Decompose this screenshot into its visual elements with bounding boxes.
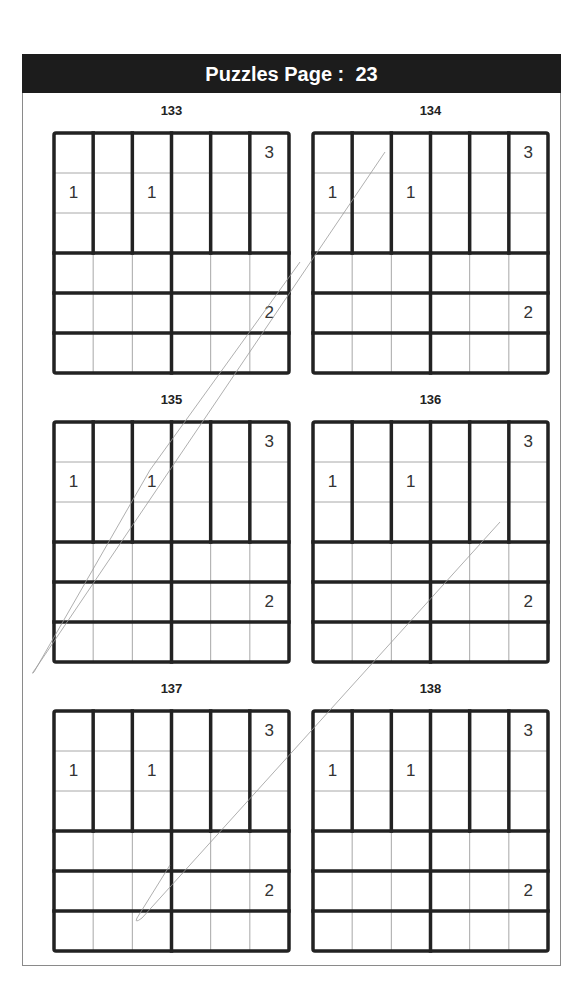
clue-number: 1	[54, 173, 93, 213]
clue-number: 1	[54, 462, 93, 502]
clue-number: 1	[313, 462, 352, 502]
puzzle-grid: 3112	[54, 422, 289, 662]
puzzle-grid: 3112	[313, 133, 548, 373]
clue-number: 2	[509, 582, 548, 622]
clue-number: 2	[509, 293, 548, 333]
puzzle-number-label: 133	[132, 103, 212, 118]
page-number: 23	[355, 54, 377, 94]
clue-number: 3	[509, 711, 548, 751]
page-title: Puzzles Page :	[205, 54, 344, 94]
puzzle-grid: 3112	[313, 422, 548, 662]
clue-number: 1	[313, 751, 352, 791]
puzzle-number-label: 138	[391, 681, 471, 696]
clue-number: 2	[250, 582, 289, 622]
clue-number: 2	[250, 293, 289, 333]
clue-number: 1	[391, 173, 430, 213]
clue-number: 1	[313, 173, 352, 213]
puzzle-grid: 3112	[54, 133, 289, 373]
clue-number: 1	[391, 462, 430, 502]
puzzle-number-label: 135	[132, 392, 212, 407]
clue-number: 1	[54, 751, 93, 791]
clue-number: 3	[509, 133, 548, 173]
clue-number: 1	[132, 751, 171, 791]
puzzle-grid: 3112	[313, 711, 548, 951]
page-header: Puzzles Page : 23	[22, 54, 561, 93]
clue-number: 1	[132, 462, 171, 502]
clue-number: 3	[250, 133, 289, 173]
clue-number: 3	[250, 422, 289, 462]
puzzle-number-label: 134	[391, 103, 471, 118]
puzzle-grid: 3112	[54, 711, 289, 951]
clue-number: 3	[509, 422, 548, 462]
clue-number: 2	[250, 871, 289, 911]
clue-number: 1	[132, 173, 171, 213]
clue-number: 2	[509, 871, 548, 911]
clue-number: 1	[391, 751, 430, 791]
puzzle-number-label: 136	[391, 392, 471, 407]
clue-number: 3	[250, 711, 289, 751]
puzzle-number-label: 137	[132, 681, 212, 696]
